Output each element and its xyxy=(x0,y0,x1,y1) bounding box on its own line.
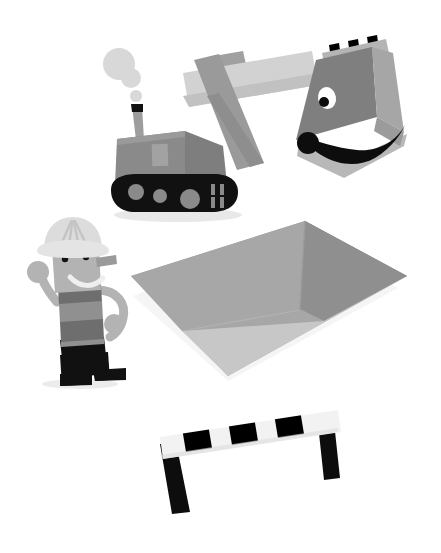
stripe-black-3 xyxy=(274,410,304,438)
shoe-left xyxy=(60,372,92,386)
excavator-tracks[interactable] xyxy=(111,174,238,212)
excavator[interactable] xyxy=(103,35,407,212)
shirt-stripe-3 xyxy=(60,319,104,343)
track-tread-3 xyxy=(220,184,224,195)
stripe-black-2 xyxy=(228,417,258,445)
bucket-nose-icon xyxy=(297,132,319,154)
hard-hat-brim xyxy=(37,240,109,258)
worker-shirt xyxy=(58,285,104,347)
smoke-puffs xyxy=(103,48,142,102)
track-tread-2 xyxy=(211,197,215,208)
shoe-right xyxy=(93,368,126,381)
construction-barricade[interactable] xyxy=(160,410,341,514)
track-wheel-3-icon xyxy=(180,189,200,209)
construction-worker[interactable] xyxy=(27,217,126,386)
exhaust-pipe-tip xyxy=(131,104,143,112)
excavation-pit[interactable] xyxy=(131,221,407,376)
worker-hard-hat[interactable] xyxy=(37,217,109,258)
track-tread-1 xyxy=(211,184,215,195)
bucket-eye-pupil-icon xyxy=(319,97,329,107)
illustration-canvas: Construction Site Illustration Flat vect… xyxy=(0,0,441,553)
track-wheel-2-icon xyxy=(153,189,167,203)
worker-hand-raised-icon xyxy=(27,261,49,283)
construction-scene-svg xyxy=(0,0,441,553)
smoke-puff-medium-icon xyxy=(121,68,141,88)
track-wheel-1-icon xyxy=(128,184,144,200)
track-tread-4 xyxy=(220,197,224,208)
exhaust-pipe xyxy=(131,104,144,140)
smoke-puff-small-icon xyxy=(130,90,142,102)
worker-hand-lower-icon xyxy=(104,314,124,334)
cab-window xyxy=(152,144,169,167)
